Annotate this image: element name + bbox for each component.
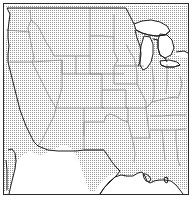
map-frame-border <box>3 3 189 195</box>
map-vector-layer <box>4 4 188 194</box>
map-figure <box>0 0 194 200</box>
map-canvas <box>4 4 188 194</box>
